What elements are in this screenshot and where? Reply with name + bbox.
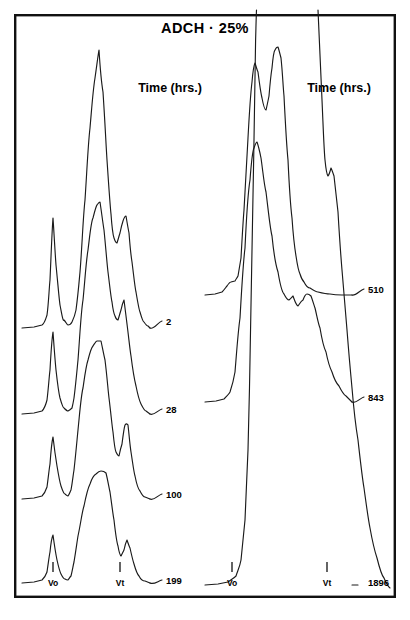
right-panel-time-caption: Time (hrs.)	[307, 81, 371, 95]
trace-label-28: 28	[166, 404, 177, 415]
trace-curve-843	[205, 142, 352, 402]
vt-label-right: Vt	[323, 578, 332, 588]
figure-root: ADCH · 25% Time (hrs.) Time (hrs.) 2 28 …	[0, 0, 410, 620]
vt-label-left: Vt	[116, 578, 125, 588]
trace-lead-199	[150, 580, 162, 584]
figure-frame	[15, 15, 395, 597]
trace-label-2: 2	[166, 316, 171, 327]
trace-label-843: 843	[368, 392, 384, 403]
trace-lead-2	[150, 321, 162, 328]
trace-label-199: 199	[166, 575, 182, 586]
trace-curve-1896	[205, 10, 257, 585]
trace-curve-1896-right	[318, 10, 390, 588]
vo-label-right: Vo	[227, 578, 237, 588]
trace-curve-28	[22, 202, 150, 414]
trace-curve-199	[22, 471, 150, 583]
chromatogram-figure: ADCH · 25% Time (hrs.) Time (hrs.) 2 28 …	[0, 0, 410, 620]
trace-label-100: 100	[166, 489, 182, 500]
trace-curve-100	[22, 341, 150, 499]
right-panel-volume-markers: Vo Vt	[227, 562, 332, 588]
trace-lead-100	[150, 494, 162, 499]
trace-lead-28	[150, 409, 162, 414]
left-panel-time-caption: Time (hrs.)	[138, 81, 202, 95]
right-panel-traces: 510 843 1896	[205, 10, 390, 588]
trace-lead-510	[352, 289, 364, 295]
vo-label-left: Vo	[48, 578, 58, 588]
left-panel-traces: 2 28 100 199	[22, 50, 182, 586]
trace-label-510: 510	[368, 284, 384, 295]
left-panel-volume-markers: Vo Vt	[48, 562, 125, 588]
trace-curve-2	[22, 50, 150, 328]
figure-title: ADCH · 25%	[161, 20, 249, 36]
trace-lead-843	[352, 397, 364, 402]
trace-label-1896: 1896	[368, 577, 389, 588]
